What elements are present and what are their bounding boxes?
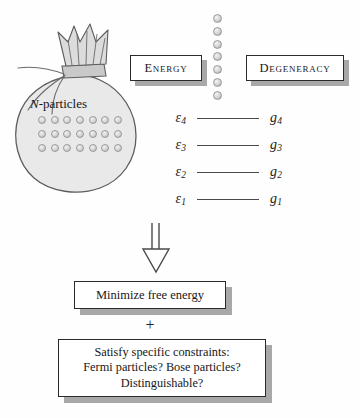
degeneracy-header-label: Degeneracy bbox=[259, 61, 330, 76]
level-line-1 bbox=[197, 199, 259, 200]
minimize-label: Minimize free energy bbox=[96, 288, 204, 303]
particle bbox=[114, 144, 122, 152]
energy-level-row-4: ε4 g4 bbox=[152, 107, 312, 129]
energy-level-row-2: ε2 g2 bbox=[152, 161, 312, 183]
particle bbox=[51, 116, 59, 124]
degeneracy-header-box: Degeneracy bbox=[246, 55, 344, 81]
column-dot bbox=[213, 40, 222, 49]
particle bbox=[101, 130, 109, 138]
energy-symbol-3: ε3 bbox=[152, 137, 186, 154]
particle bbox=[38, 116, 46, 124]
particle bbox=[63, 130, 71, 138]
column-dot bbox=[213, 65, 222, 74]
energy-header-label: Energy bbox=[144, 61, 187, 76]
statistical-mechanics-diagram: N-particles Energy bbox=[0, 0, 360, 418]
energy-symbol-4: ε4 bbox=[152, 110, 186, 127]
degeneracy-symbol-2: g2 bbox=[270, 164, 300, 181]
degeneracy-symbol-1: g1 bbox=[270, 191, 300, 208]
column-dot bbox=[213, 91, 222, 100]
bag-label-n: N bbox=[30, 96, 39, 111]
particle bbox=[89, 144, 97, 152]
level-line-4 bbox=[197, 118, 259, 119]
particle bbox=[101, 116, 109, 124]
particle bbox=[76, 144, 84, 152]
particle bbox=[38, 144, 46, 152]
bag-label-suffix: -particles bbox=[39, 96, 87, 111]
constraints-line-2: Fermi particles? Bose particles? bbox=[83, 360, 240, 376]
degeneracy-symbol-4: g4 bbox=[270, 110, 300, 127]
level-line-3 bbox=[197, 145, 259, 146]
constraints-line-1: Satisfy specific constraints: bbox=[94, 345, 229, 361]
plus-sign: + bbox=[141, 316, 159, 334]
constraints-box: Satisfy specific constraints: Fermi part… bbox=[58, 339, 266, 397]
particle bbox=[63, 144, 71, 152]
particle bbox=[38, 130, 46, 138]
particle bbox=[114, 130, 122, 138]
column-dot bbox=[213, 78, 222, 87]
particle bbox=[89, 116, 97, 124]
level-line-2 bbox=[197, 172, 259, 173]
energy-level-row-1: ε1 g1 bbox=[152, 188, 312, 210]
energy-symbol-1: ε1 bbox=[152, 191, 186, 208]
column-dot bbox=[213, 52, 222, 61]
particle bbox=[76, 130, 84, 138]
down-arrow-icon bbox=[138, 222, 174, 274]
particle bbox=[114, 116, 122, 124]
bag-pleat-fan bbox=[58, 24, 108, 66]
particle bbox=[89, 130, 97, 138]
down-arrow-glyph bbox=[138, 222, 174, 274]
bag-label: N-particles bbox=[30, 96, 87, 112]
degeneracy-symbol-3: g3 bbox=[270, 137, 300, 154]
particle bbox=[51, 130, 59, 138]
particle bbox=[76, 116, 84, 124]
particle bbox=[51, 144, 59, 152]
particle bbox=[101, 144, 109, 152]
particle bbox=[63, 116, 71, 124]
vertical-dot-column bbox=[210, 14, 224, 100]
column-dot bbox=[213, 27, 222, 36]
column-dot bbox=[213, 14, 222, 23]
particle-grid bbox=[36, 113, 124, 155]
constraints-line-3: Distinguishable? bbox=[121, 376, 204, 392]
energy-level-row-3: ε3 g3 bbox=[152, 134, 312, 156]
energy-symbol-2: ε2 bbox=[152, 164, 186, 181]
minimize-free-energy-box: Minimize free energy bbox=[74, 281, 226, 309]
energy-header-box: Energy bbox=[130, 55, 202, 81]
